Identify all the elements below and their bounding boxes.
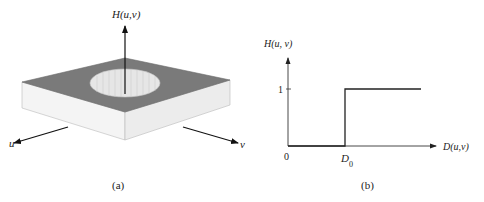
y-tick-label: 1 [278, 84, 283, 95]
figure-b-profile-plot: H(u, v) 1 0 D 0 D(u,v) (b) [263, 38, 469, 192]
cutoff-label: D [340, 152, 349, 164]
origin-label: 0 [284, 151, 289, 162]
caption-a: (a) [112, 179, 125, 192]
u-axis-label: u [9, 137, 15, 149]
h-axis-label: H(u,v) [111, 8, 141, 21]
u-axis-arrow [14, 127, 68, 143]
y-axis-label: H(u, v) [263, 38, 293, 50]
v-axis-label: v [240, 138, 245, 150]
x-axis-label: D(u,v) [442, 141, 469, 153]
highpass-step-curve [288, 89, 421, 146]
v-axis-arrow [183, 127, 238, 143]
cutoff-subscript: 0 [349, 160, 353, 169]
figure-a-3d-plot: H(u,v) u v (a) [9, 8, 245, 192]
caption-b: (b) [361, 179, 374, 192]
